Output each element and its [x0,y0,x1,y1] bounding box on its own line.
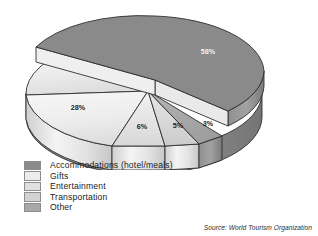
legend-label-other: Other [50,202,72,213]
pie-chart-svg: 58% 28% 6% 5% 3% [0,0,318,170]
legend-swatch-gifts [24,171,41,181]
pie-chart-canvas: 58% 28% 6% 5% 3% [0,0,318,170]
legend-label-accommodations: Accommodations (hotel/meals) [50,160,173,171]
legend-swatch-accommodations [24,161,41,171]
legend-item-entertainment: Entertainment [24,181,254,192]
legend-item-gifts: Gifts [24,171,254,182]
legend-swatch-other [24,203,41,213]
label-other: 3% [203,119,214,128]
legend-label-gifts: Gifts [50,171,69,182]
legend-item-other: Other [24,202,254,213]
label-entertainment: 6% [137,122,148,131]
legend-swatch-entertainment [24,182,41,192]
chart-legend: Accommodations (hotel/meals) Gifts Enter… [24,160,254,213]
label-transportation: 5% [173,121,184,130]
legend-item-transportation: Transportation [24,192,254,203]
source-attribution: Source: World Tourism Organization [204,224,312,231]
legend-item-accommodations: Accommodations (hotel/meals) [24,160,254,171]
legend-label-transportation: Transportation [50,192,108,203]
label-gifts: 28% [71,103,86,112]
legend-label-entertainment: Entertainment [50,181,106,192]
pie-chart-figure: 58% 28% 6% 5% 3% Accommodations (hotel/m… [0,0,318,236]
label-accommodations: 58% [201,47,216,56]
legend-swatch-transportation [24,192,41,202]
